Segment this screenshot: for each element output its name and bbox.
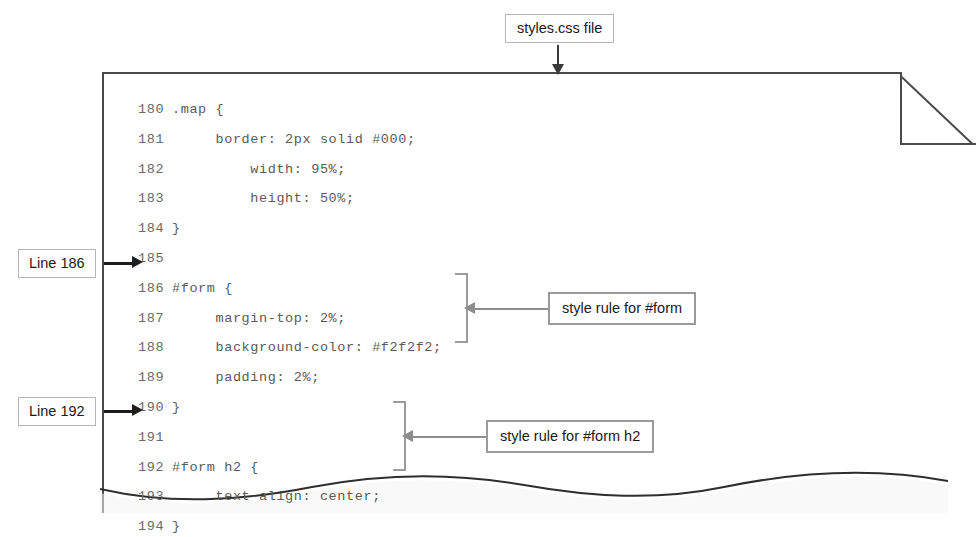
left-arrow-icon <box>402 430 413 442</box>
line-number: 185 <box>138 244 172 274</box>
line-number: 187 <box>138 304 172 334</box>
line-text: border: 2px solid #000; <box>172 132 416 147</box>
code-line: 187 margin-top: 2%; <box>138 304 442 334</box>
line-number: 192 <box>138 453 172 483</box>
line-number: 180 <box>138 95 172 125</box>
page-folded-corner-icon <box>900 72 978 146</box>
down-arrow-icon <box>552 64 564 75</box>
line-number: 182 <box>138 155 172 185</box>
code-line: 188 background-color: #f2f2f2; <box>138 333 442 363</box>
page-top-border <box>102 72 902 74</box>
code-line: 182 width: 95%; <box>138 155 442 185</box>
page-left-border <box>102 72 104 513</box>
line-186-arrow-shaft <box>104 262 134 265</box>
line-text: .map { <box>172 102 224 117</box>
line-number: 186 <box>138 274 172 304</box>
line-text: margin-top: 2%; <box>172 311 346 326</box>
line-text: width: 95%; <box>172 162 346 177</box>
code-line: 181 border: 2px solid #000; <box>138 125 442 155</box>
line-text: #form h2 { <box>172 460 259 475</box>
code-line: 186#form { <box>138 274 442 304</box>
line-text: #form { <box>172 281 233 296</box>
code-line: 189 padding: 2%; <box>138 363 442 393</box>
code-line: 193 text-align: center; <box>138 482 442 512</box>
page-fold-horizontal-edge <box>900 143 976 145</box>
right-arrow-icon <box>132 404 143 416</box>
line-number: 181 <box>138 125 172 155</box>
code-line: 194} <box>138 512 442 537</box>
line-text: text-align: center; <box>172 489 381 504</box>
code-line: 183 height: 50%; <box>138 184 442 214</box>
styles-css-file-label: styles.css file <box>505 14 614 43</box>
line-192-label: Line 192 <box>18 397 96 426</box>
line-text: } <box>172 400 181 415</box>
line-number: 183 <box>138 184 172 214</box>
style-rule-form-h2-callout: style rule for #form h2 <box>486 420 654 453</box>
line-text: background-color: #f2f2f2; <box>172 340 442 355</box>
left-arrow-icon <box>464 302 475 314</box>
style-rule-form-callout: style rule for #form <box>548 292 696 325</box>
line-192-arrow-shaft <box>104 410 134 413</box>
line-number: 190 <box>138 393 172 423</box>
code-line: 185 <box>138 244 442 274</box>
line-text: padding: 2%; <box>172 370 320 385</box>
h2-callout-arrow-shaft <box>412 436 488 438</box>
line-number: 194 <box>138 512 172 537</box>
line-186-label: Line 186 <box>18 249 96 278</box>
code-line: 184} <box>138 214 442 244</box>
code-line: 180.map { <box>138 95 442 125</box>
line-number: 193 <box>138 482 172 512</box>
line-number: 191 <box>138 423 172 453</box>
line-text: } <box>172 221 181 236</box>
right-arrow-icon <box>132 256 143 268</box>
line-text: } <box>172 519 181 534</box>
form-callout-arrow-shaft <box>474 308 550 310</box>
line-number: 189 <box>138 363 172 393</box>
line-number: 188 <box>138 333 172 363</box>
line-text: height: 50%; <box>172 191 355 206</box>
line-number: 184 <box>138 214 172 244</box>
